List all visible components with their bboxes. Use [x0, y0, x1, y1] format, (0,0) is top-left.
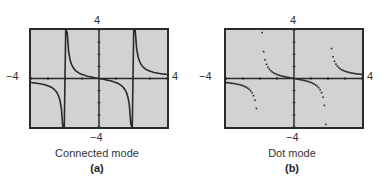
xmin-label: −4 [6, 70, 19, 82]
ymin-label: −4 [90, 131, 103, 143]
caption: Dot mode [195, 147, 389, 159]
xmax-label: 4 [172, 70, 178, 82]
connected-plot [31, 30, 167, 127]
ymax-label: 4 [94, 14, 100, 26]
sublabel: (b) [195, 162, 389, 174]
xmin-label: −4 [199, 70, 212, 82]
dot-plot [226, 30, 362, 127]
panel-connected-mode: 4 −4 4 −4 Connected mode (a) [0, 0, 194, 185]
ymax-label: 4 [290, 14, 296, 26]
caption: Connected mode [0, 147, 194, 159]
sublabel: (a) [0, 162, 194, 174]
xmax-label: 4 [367, 70, 373, 82]
graph-screen-b [224, 28, 364, 129]
graph-screen-a [29, 28, 169, 129]
ymin-label: −4 [286, 131, 299, 143]
panel-dot-mode: 4 −4 4 −4 Dot mode (b) [195, 0, 389, 185]
